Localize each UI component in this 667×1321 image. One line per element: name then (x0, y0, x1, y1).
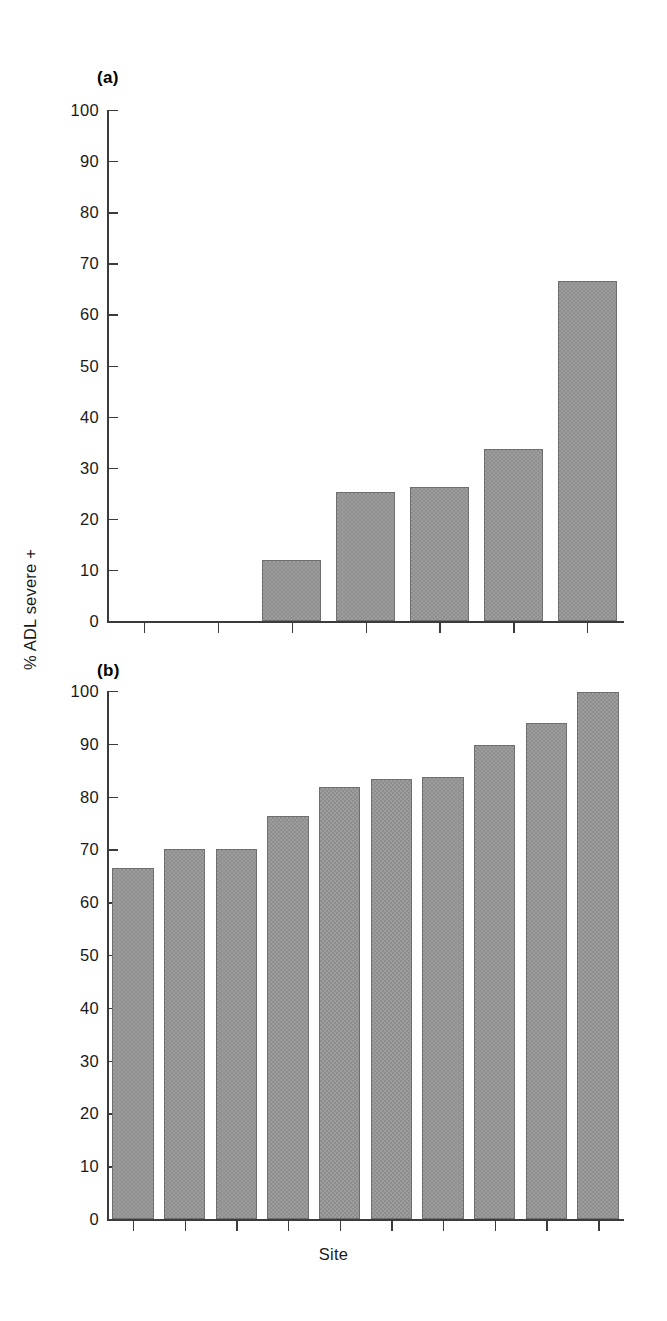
y-axis-tick-label: 30 (51, 1053, 99, 1070)
bar (319, 787, 360, 1219)
y-axis-tick-label: 60 (51, 894, 99, 911)
x-axis-tick (340, 1220, 341, 1231)
x-axis-tick (133, 1220, 134, 1231)
x-axis-tick (495, 1220, 496, 1231)
bar (216, 849, 257, 1219)
bar (164, 849, 205, 1219)
bar (267, 816, 308, 1219)
panel-b: (b) 1009080706050403020100 Site (0, 0, 667, 1321)
bar (577, 692, 618, 1219)
x-axis-tick (185, 1220, 186, 1231)
bar (371, 779, 412, 1219)
figure-container: % ADL severe + (a) 100908070605040302010… (0, 0, 667, 1321)
plot-area-b: 1009080706050403020100 (0, 0, 667, 1321)
y-axis-tick (108, 744, 118, 745)
y-axis-tick (108, 797, 118, 798)
x-axis-tick (443, 1220, 444, 1231)
y-axis-tick-label: 100 (51, 683, 99, 700)
bar (526, 723, 567, 1219)
bar (422, 777, 463, 1219)
y-axis-tick-label: 70 (51, 841, 99, 858)
y-axis-tick-label: 50 (51, 947, 99, 964)
x-axis-title: Site (0, 1245, 667, 1264)
x-axis-tick (391, 1220, 392, 1231)
y-axis-tick (108, 1219, 118, 1220)
x-axis-tick (288, 1220, 289, 1231)
y-axis-tick-label: 10 (51, 1158, 99, 1175)
y-axis-tick-label: 0 (51, 1211, 99, 1228)
y-axis-tick-label: 90 (51, 736, 99, 753)
y-axis-tick-label: 20 (51, 1105, 99, 1122)
x-axis-tick (598, 1220, 599, 1231)
x-axis-tick (236, 1220, 237, 1231)
y-axis-tick (108, 691, 118, 692)
x-axis-tick (546, 1220, 547, 1231)
y-axis-tick-label: 80 (51, 789, 99, 806)
y-axis-tick (108, 849, 118, 850)
bar (474, 745, 515, 1219)
y-axis-tick-label: 40 (51, 1000, 99, 1017)
bar (112, 868, 153, 1219)
